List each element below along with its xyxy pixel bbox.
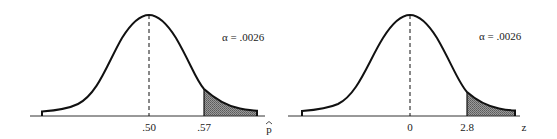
figure: .50 .57 p α = .0026 0 2.8 z α = .0026 [0,0,557,139]
rejection-region-shade [204,89,257,116]
critical-tick-label: 2.8 [460,121,474,133]
center-tick-label: 0 [407,121,413,133]
x-axis-label: z [522,121,527,133]
x-axis-label: p [266,123,272,135]
chart-z: 0 2.8 z α = .0026 [288,15,527,133]
rejection-region-shade [467,92,515,116]
alpha-annotation: α = .0026 [222,31,265,43]
chart-phat: .50 .57 p α = .0026 [30,15,272,135]
center-tick-label: .50 [142,121,156,133]
alpha-annotation: α = .0026 [479,30,522,42]
critical-tick-label: .57 [197,121,211,133]
